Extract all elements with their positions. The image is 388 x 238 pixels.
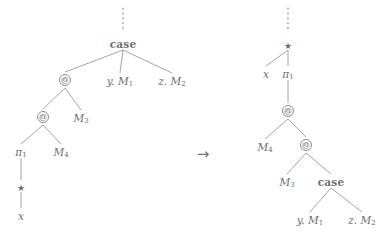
tree-edge (310, 188, 331, 212)
star-icon: ★ (284, 41, 292, 51)
projection-node: π1 (15, 143, 26, 160)
branch-label: z. M2 (158, 75, 185, 87)
case-branch-node: z. M2 (158, 72, 185, 89)
tree-edge (306, 153, 331, 174)
at-symbol-icon: @ (282, 105, 294, 117)
reduction-figure: case@y. M1z. M2@M3π1M4★x★xπ1@M4@M3casey.… (0, 0, 388, 238)
case-label: case (110, 38, 137, 50)
variable-label: x (18, 210, 24, 222)
at-symbol-icon: @ (59, 74, 71, 86)
application-node: @ (59, 74, 71, 86)
case-label: case (318, 176, 345, 188)
case-branch-node: y. M1 (107, 72, 133, 89)
case-keyword-node: case (318, 173, 345, 189)
tree-edge (120, 50, 123, 73)
case-branch-node: z. M2 (348, 211, 375, 228)
at-symbol-icon: @ (37, 111, 49, 123)
projection-node: π1 (282, 65, 293, 82)
tree-edge (123, 50, 172, 73)
case-branch-node: y. M1 (297, 211, 323, 228)
at-symbol-icon: @ (300, 139, 312, 151)
application-node: @ (282, 105, 294, 117)
term-label: M3 (279, 176, 294, 188)
tree-edges (0, 0, 388, 238)
variable-label: x (263, 68, 269, 80)
branch-label: z. M2 (348, 214, 375, 226)
tree-edge (265, 119, 288, 139)
branch-label: y. M1 (297, 214, 323, 226)
tree-edge (21, 125, 43, 144)
term-node: M4 (257, 138, 272, 155)
variable-node: x (263, 65, 269, 81)
star-node: ★ (17, 178, 25, 194)
tree-edge (43, 88, 65, 109)
reduction-arrow-icon: → (197, 147, 210, 162)
term-node: M3 (73, 109, 88, 126)
tree-edge (331, 188, 362, 212)
term-label: M4 (53, 146, 68, 158)
term-label: M4 (257, 141, 272, 153)
tree-edge (43, 125, 61, 144)
tree-edge (287, 153, 306, 174)
projection-label: π1 (15, 146, 26, 158)
case-keyword-node: case (110, 35, 137, 51)
tree-edge (266, 50, 288, 66)
tree-edge (65, 88, 81, 110)
star-node: ★ (284, 36, 292, 52)
term-node: M4 (53, 143, 68, 160)
variable-node: x (18, 207, 24, 223)
term-node: M3 (279, 173, 294, 190)
application-node: @ (37, 111, 49, 123)
star-icon: ★ (17, 183, 25, 193)
application-node: @ (300, 139, 312, 151)
branch-label: y. M1 (107, 75, 133, 87)
term-label: M3 (73, 112, 88, 124)
tree-edge (65, 50, 123, 72)
tree-edge (288, 119, 306, 137)
projection-label: π1 (282, 68, 293, 80)
